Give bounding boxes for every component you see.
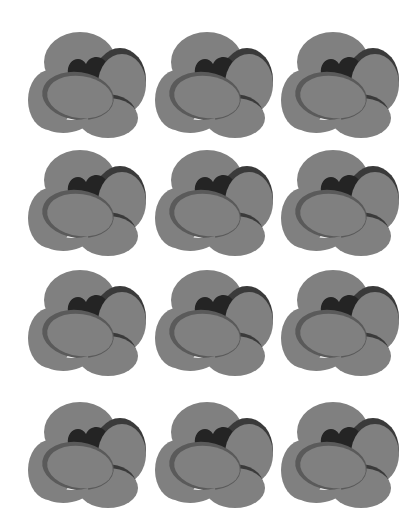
flower-icon [28,266,148,378]
flower-icon [28,28,148,140]
flower-icon [281,146,401,258]
flower-image-5 [155,146,275,258]
flower-image-3 [281,28,401,140]
flower-icon [28,398,148,510]
flower-image-11 [155,398,275,510]
flower-image-6 [281,146,401,258]
flower-image-9 [281,266,401,378]
flower-image-2 [155,28,275,140]
flower-icon [155,28,275,140]
flower-icon [28,146,148,258]
flower-image-4 [28,146,148,258]
flower-grid [0,0,418,529]
flower-image-12 [281,398,401,510]
flower-icon [155,146,275,258]
flower-image-1 [28,28,148,140]
flower-image-8 [155,266,275,378]
flower-icon [155,398,275,510]
flower-image-7 [28,266,148,378]
flower-icon [281,398,401,510]
flower-icon [155,266,275,378]
flower-icon [281,28,401,140]
flower-icon [281,266,401,378]
flower-image-10 [28,398,148,510]
